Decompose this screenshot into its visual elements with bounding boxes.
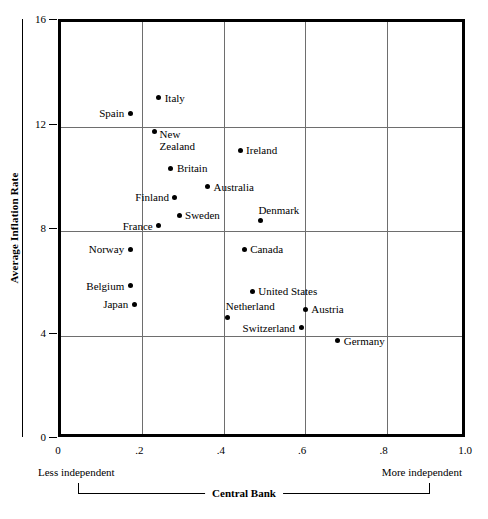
x-axis-right-anchor-label: More independent <box>382 466 462 479</box>
plot-area: ItalySpainNew ZealandIrelandBritainAustr… <box>58 19 465 437</box>
data-point <box>177 213 182 218</box>
y-axis-tick-mark <box>49 19 57 20</box>
gridline-horizontal <box>61 127 462 128</box>
x-axis-bracket-right-cap <box>429 483 430 494</box>
y-axis-tick-label: 8 <box>28 222 46 234</box>
data-point-label: France <box>123 220 153 232</box>
gridline-vertical <box>224 22 225 434</box>
data-point <box>156 95 161 100</box>
data-point <box>132 302 137 307</box>
x-axis-tick-label: .6 <box>298 444 306 456</box>
y-axis-tick-label: 0 <box>28 431 46 443</box>
gridline-vertical <box>305 22 306 434</box>
data-point <box>128 111 133 116</box>
data-point-label: Canada <box>250 243 283 255</box>
data-point-label: Italy <box>165 92 185 104</box>
data-point-label: Norway <box>89 243 124 255</box>
gridline-horizontal <box>61 231 462 232</box>
data-point <box>205 184 210 189</box>
data-point <box>172 195 177 200</box>
y-axis-tick-label: 16 <box>28 13 46 25</box>
data-point-label: Ireland <box>246 144 277 156</box>
data-point <box>250 289 255 294</box>
x-axis-tick-label: .8 <box>379 444 387 456</box>
x-axis-tick-label: 1.0 <box>458 444 472 456</box>
x-axis-title: Central Bank <box>205 487 283 500</box>
data-point <box>156 223 161 228</box>
x-axis-bracket-left-cap <box>78 483 79 494</box>
gridline-vertical <box>387 22 388 434</box>
data-point <box>299 325 304 330</box>
data-point-label: Sweden <box>185 209 220 221</box>
y-axis-tick-mark <box>49 228 57 229</box>
data-point-label: Austria <box>311 303 343 315</box>
data-point <box>152 129 157 134</box>
y-axis-tick-label: 4 <box>28 327 46 339</box>
data-point-label: Belgium <box>86 280 124 292</box>
data-point-label: Finland <box>135 191 169 203</box>
data-point-label: Spain <box>99 107 124 119</box>
data-point-label: Japan <box>103 298 128 310</box>
y-axis-title: Average Inflation Rate <box>6 19 22 437</box>
scatter-chart: Average Inflation Rate 0481216 ItalySpai… <box>0 0 488 519</box>
data-point-label: New Zealand <box>160 128 214 152</box>
y-axis-tick-mark <box>49 124 57 125</box>
data-point <box>303 307 308 312</box>
gridline-horizontal <box>61 336 462 337</box>
data-point-label: United States <box>258 285 317 297</box>
data-point-label: Britain <box>177 162 208 174</box>
x-axis-tick-label: 0 <box>55 444 61 456</box>
data-point-label: Netherland <box>226 300 275 312</box>
y-axis-tick-mark <box>49 437 57 438</box>
x-axis-left-anchor-label: Less independent <box>38 466 115 479</box>
data-point <box>128 283 133 288</box>
x-axis-tick-label: .4 <box>217 444 225 456</box>
data-point-label: Australia <box>214 181 254 193</box>
x-axis-tick-label: .2 <box>135 444 143 456</box>
data-point <box>168 166 173 171</box>
y-axis-tick-mark <box>49 333 57 334</box>
data-point-label: Denmark <box>258 204 299 216</box>
data-point <box>258 218 263 223</box>
plot-inner: ItalySpainNew ZealandIrelandBritainAustr… <box>61 22 462 434</box>
data-point <box>335 338 340 343</box>
data-point <box>242 247 247 252</box>
data-point-label: Germany <box>344 335 385 347</box>
data-point-label: Switzerland <box>243 322 296 334</box>
data-point <box>225 315 230 320</box>
y-axis-tick-label: 12 <box>28 118 46 130</box>
y-axis-bracket <box>22 19 23 437</box>
data-point <box>238 148 243 153</box>
data-point <box>128 247 133 252</box>
